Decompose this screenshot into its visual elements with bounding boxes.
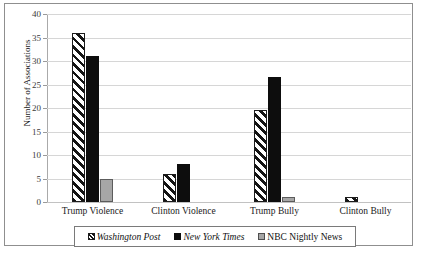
- x-axis-label-clinton-bully: Clinton Bully: [320, 206, 411, 217]
- y-axis-tick-label: 25: [32, 81, 41, 90]
- bar-group: [138, 14, 229, 202]
- bar: [268, 77, 281, 202]
- x-axis-label-trump-bully: Trump Bully: [229, 206, 320, 217]
- bar: [254, 110, 267, 202]
- y-axis-tick: [43, 85, 47, 86]
- y-axis-tick: [43, 179, 47, 180]
- legend-swatch-icon: [88, 233, 95, 240]
- y-axis-tick-label: 30: [32, 57, 41, 66]
- bar: [100, 179, 113, 203]
- bar: [177, 164, 190, 202]
- bar: [163, 174, 176, 202]
- y-axis-tick-label: 20: [32, 104, 41, 113]
- bar: [86, 56, 99, 202]
- legend-swatch-icon: [174, 233, 181, 240]
- legend-label: NBC Nightly News: [267, 232, 342, 242]
- y-axis-tick-label: 0: [37, 198, 42, 207]
- y-axis-tick-label: 40: [32, 10, 41, 19]
- y-axis-tick-label: 10: [32, 151, 41, 160]
- x-axis-labels: Trump ViolenceClinton ViolenceTrump Bull…: [47, 206, 411, 222]
- y-axis-tick: [43, 132, 47, 133]
- y-axis-tick-label: 5: [37, 175, 42, 184]
- bar-group: [229, 14, 320, 202]
- bar-group: [47, 14, 138, 202]
- chart-frame: Number of Associations 0510152025303540 …: [4, 3, 413, 246]
- legend-item[interactable]: NBC Nightly News: [258, 232, 342, 242]
- legend-swatch-icon: [258, 233, 265, 240]
- legend-item[interactable]: Washington Post: [88, 232, 161, 242]
- y-axis-tick: [43, 61, 47, 62]
- y-axis-tick-label: 35: [32, 34, 41, 43]
- bar: [72, 33, 85, 202]
- bar: [282, 197, 295, 202]
- bar-group: [320, 14, 411, 202]
- x-axis-label-trump-violence: Trump Violence: [47, 206, 138, 217]
- legend-label: New York Times: [183, 232, 244, 242]
- chart-legend: Washington PostNew York TimesNBC Nightly…: [74, 226, 356, 247]
- y-axis-tick: [43, 14, 47, 15]
- figure-canvas: Number of Associations 0510152025303540 …: [0, 0, 435, 255]
- y-axis-tick-label: 15: [32, 128, 41, 137]
- y-axis-tick-labels: 0510152025303540: [5, 4, 41, 255]
- y-axis-tick: [43, 155, 47, 156]
- legend-label: Washington Post: [97, 232, 161, 242]
- gridline: [47, 202, 411, 203]
- legend-item[interactable]: New York Times: [174, 232, 244, 242]
- x-axis-label-clinton-violence: Clinton Violence: [138, 206, 229, 217]
- y-axis-tick: [43, 202, 47, 203]
- bar: [345, 197, 358, 202]
- y-axis-tick: [43, 108, 47, 109]
- plot-area: [47, 14, 411, 202]
- y-axis-tick: [43, 38, 47, 39]
